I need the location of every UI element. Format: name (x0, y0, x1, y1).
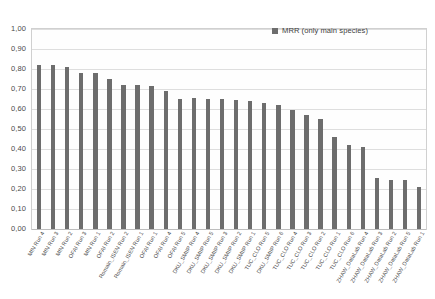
legend-swatch-icon (272, 28, 278, 34)
bar (290, 110, 294, 229)
bar-chart: 1,000,900,800,700,600,500,400,300,200,10… (0, 0, 435, 299)
bar (37, 65, 41, 229)
bar-slot (243, 29, 257, 229)
bar (178, 99, 182, 229)
y-axis-tick-label: 0,30 (11, 165, 26, 173)
bar (375, 178, 379, 229)
bar-slot (412, 29, 426, 229)
y-axis-tick-label: 0,40 (11, 145, 26, 153)
bar-slot (257, 29, 271, 229)
bar-slot (328, 29, 342, 229)
bar-slot (187, 29, 201, 229)
bar (361, 147, 365, 229)
bar (135, 85, 139, 229)
bar-slot (32, 29, 46, 229)
bar (403, 180, 407, 229)
bar-slot (314, 29, 328, 229)
bar (332, 137, 336, 229)
y-axis-tick-label: 0,10 (11, 205, 26, 213)
bar-slot (60, 29, 74, 229)
y-axis-tick-label: 0,70 (11, 85, 26, 93)
x-axis: MfN Run 4MfN Run 3MfN Run 2OFAI Run 3MfN… (32, 231, 426, 299)
legend: MRR (only main species) (272, 26, 368, 35)
bar (149, 86, 153, 229)
bar-slot (201, 29, 215, 229)
bar-slot (215, 29, 229, 229)
y-axis-tick-label: 1,00 (11, 25, 26, 33)
bar (51, 65, 55, 229)
bar (417, 187, 421, 229)
bar-slot (285, 29, 299, 229)
bar-slot (88, 29, 102, 229)
bar (65, 67, 69, 229)
bar-slot (74, 29, 88, 229)
y-axis-tick-label: 0,90 (11, 45, 26, 53)
bar (121, 85, 125, 229)
bar (206, 99, 210, 229)
bar-slot (370, 29, 384, 229)
bar (389, 180, 393, 229)
y-axis-tick-label: 0,20 (11, 185, 26, 193)
bar-slot (159, 29, 173, 229)
bar-slot (102, 29, 116, 229)
bar-slot (384, 29, 398, 229)
y-axis-tick-label: 0,00 (11, 225, 26, 233)
bar (234, 100, 238, 229)
bar-slot (131, 29, 145, 229)
bar-slot (356, 29, 370, 229)
gridline (32, 229, 426, 230)
y-axis-tick-label: 0,60 (11, 105, 26, 113)
legend-label: MRR (only main species) (282, 26, 368, 35)
bar-slot (229, 29, 243, 229)
bar-slot (271, 29, 285, 229)
bar (318, 119, 322, 229)
bar-slot (116, 29, 130, 229)
bar-slot (173, 29, 187, 229)
bar-slot (342, 29, 356, 229)
y-axis-tick-label: 0,80 (11, 65, 26, 73)
bar (93, 73, 97, 229)
bar (164, 91, 168, 229)
bar-slot (299, 29, 313, 229)
bar (79, 73, 83, 229)
bar (347, 145, 351, 229)
bar-slot (398, 29, 412, 229)
bar (248, 101, 252, 229)
bar (262, 103, 266, 229)
bar (220, 99, 224, 229)
bar-series (32, 29, 426, 229)
bar (304, 115, 308, 229)
bar (107, 79, 111, 229)
y-axis-tick-label: 0,50 (11, 125, 26, 133)
bar-slot (145, 29, 159, 229)
bar-slot (46, 29, 60, 229)
bar (192, 98, 196, 229)
bar (276, 105, 280, 229)
y-axis: 1,000,900,800,700,600,500,400,300,200,10… (0, 28, 29, 230)
